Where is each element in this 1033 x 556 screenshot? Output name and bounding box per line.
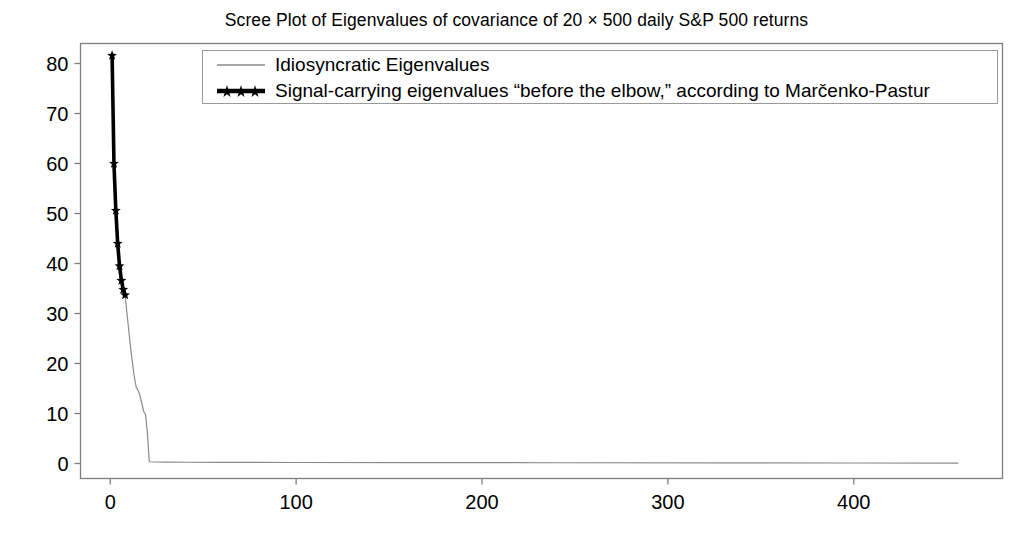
- legend-label-signal-carrying: Signal-carrying eigenvalues “before the …: [275, 81, 930, 100]
- y-axis-ticks: [75, 64, 81, 464]
- x-tick-label: 200: [465, 491, 498, 514]
- y-tick-label: 40: [46, 252, 68, 275]
- y-tick-label: 50: [46, 202, 68, 225]
- x-tick-label: 300: [651, 491, 684, 514]
- thick-black-line-with-stars-icon: [213, 81, 269, 101]
- plot-frame: [81, 44, 1003, 479]
- y-tick-label: 0: [57, 452, 68, 475]
- data-series-group: [107, 50, 958, 463]
- x-tick-label: 0: [105, 491, 116, 514]
- chart-legend: Idiosyncratic Eigenvalues Signal-carryin…: [202, 50, 998, 104]
- y-tick-label: 60: [46, 152, 68, 175]
- y-tick-label: 20: [46, 352, 68, 375]
- y-tick-label: 80: [46, 52, 68, 75]
- y-tick-label: 10: [46, 402, 68, 425]
- x-tick-label: 400: [837, 491, 870, 514]
- series-line-0: [112, 56, 958, 464]
- legend-entry-idiosyncratic: Idiosyncratic Eigenvalues: [203, 51, 489, 78]
- y-tick-label: 30: [46, 302, 68, 325]
- thin-gray-line-icon: [213, 55, 269, 75]
- legend-label-idiosyncratic: Idiosyncratic Eigenvalues: [275, 55, 489, 74]
- legend-entry-signal-carrying: Signal-carrying eigenvalues “before the …: [203, 77, 930, 104]
- series-line-1: [112, 56, 125, 296]
- x-axis-ticks: [110, 479, 854, 485]
- figure-canvas: Scree Plot of Eigenvalues of covariance …: [0, 0, 1033, 556]
- y-tick-label: 70: [46, 102, 68, 125]
- x-tick-label: 100: [279, 491, 312, 514]
